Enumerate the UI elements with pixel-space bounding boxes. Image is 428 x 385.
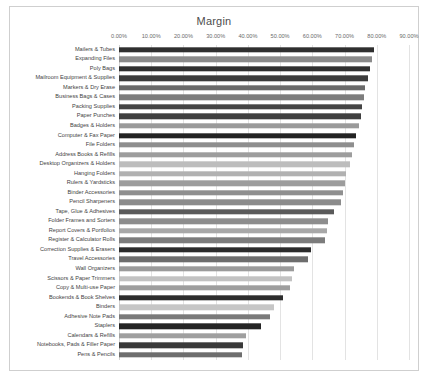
x-tick-label: 20.00% [174,33,193,39]
x-tick-label: 0.00% [111,33,127,39]
bar-row: Bookends & Book Shelves [119,293,409,303]
category-label: Computer & Fax Paper [58,133,115,139]
x-tick-label: 40.00% [238,33,257,39]
bar-row: Mailers & Tubes [119,45,409,55]
category-label: Rulers & Yardsticks [67,180,115,186]
category-label: Packing Supplies [72,104,115,110]
category-label: Bookends & Book Shelves [49,295,115,301]
bar-row: Paper Punches [119,112,409,122]
bar[interactable] [119,352,242,357]
bar-row: Folder Frames and Sorters [119,217,409,227]
bar[interactable] [119,257,308,262]
category-label: Wall Organizers [75,266,115,272]
bar[interactable] [119,304,274,309]
bar[interactable] [119,95,364,100]
bar-row: Copy & Multi-use Paper [119,283,409,293]
bar-row: File Folders [119,140,409,150]
bar[interactable] [119,133,356,138]
bar[interactable] [119,190,343,195]
x-tick-label: 80.00% [367,33,386,39]
category-label: Pencil Sharpeners [69,199,115,205]
bar[interactable] [119,66,370,71]
category-label: File Folders [86,142,115,148]
bar[interactable] [119,228,327,233]
plot-area: Mailers & TubesExpanding FilesPoly BagsM… [119,45,409,360]
category-label: Mailers & Tubes [75,47,115,53]
bar-row: Travel Accessories [119,255,409,265]
bar[interactable] [119,266,294,271]
x-tick-label: 90.00% [400,33,419,39]
category-label: Markers & Dry Erase [63,85,115,91]
bar-row: Correction Supplies & Erasers [119,245,409,255]
category-label: Expanding Files [75,57,115,63]
category-label: Paper Punches [77,114,115,120]
category-label: Binder Accessories [67,190,115,196]
bar[interactable] [119,142,354,147]
bar-row: Notebooks, Pads & Filler Paper [119,340,409,350]
bar[interactable] [119,200,341,205]
bar[interactable] [119,314,270,319]
x-tick-label: 70.00% [335,33,354,39]
bar[interactable] [119,171,346,176]
category-label: Binders [96,304,115,310]
bar-row: Wall Organizers [119,264,409,274]
bar[interactable] [119,276,292,281]
x-tick-label: 50.00% [271,33,290,39]
bar-row: Desktop Organizers & Holders [119,159,409,169]
bar[interactable] [119,238,325,243]
bar[interactable] [119,333,246,338]
bar-row: Markers & Dry Erase [119,83,409,93]
x-tick-label: 60.00% [303,33,322,39]
bar-row: Badges & Holders [119,121,409,131]
bar-row: Adhesive Note Pads [119,312,409,322]
bar-row: Calendars & Refills [119,331,409,341]
bar[interactable] [119,85,365,90]
category-label: Correction Supplies & Erasers [40,247,115,253]
category-label: Folder Frames and Sorters [48,219,115,225]
bar[interactable] [119,76,368,81]
bar[interactable] [119,47,374,52]
bar-row: Address Books & Refills [119,150,409,160]
bar[interactable] [119,295,283,300]
bar-row: Report Covers & Portfolios [119,226,409,236]
chart-title: Margin [10,15,418,27]
bar-row: Register & Calculator Rolls [119,236,409,246]
bar[interactable] [119,114,361,119]
category-label: Staplers [94,323,115,329]
category-label: Poly Bags [90,66,115,72]
bar[interactable] [119,57,372,62]
category-label: Travel Accessories [68,257,115,263]
bar[interactable] [119,209,334,214]
category-label: Badges & Holders [70,123,115,129]
category-label: Notebooks, Pads & Filler Paper [37,342,115,348]
category-label: Adhesive Note Pads [64,314,115,320]
bar-row: Expanding Files [119,55,409,65]
category-label: Calendars & Refills [67,333,115,339]
bar-row: Business Bags & Cases [119,93,409,103]
bar[interactable] [119,247,311,252]
category-label: Scissors & Paper Trimmers [47,276,115,282]
bar[interactable] [119,152,352,157]
bar-row: Rulers & Yardsticks [119,178,409,188]
bar-row: Pens & Pencils [119,350,409,360]
bar[interactable] [119,181,345,186]
category-label: Register & Calculator Rolls [48,238,115,244]
bar-row: Binders [119,302,409,312]
bar[interactable] [119,161,350,166]
category-label: Business Bags & Cases [55,95,115,101]
bar-row: Staplers [119,321,409,331]
chart-frame: Margin 0.00%10.00%20.00%30.00%40.00%50.0… [9,6,419,371]
bar[interactable] [119,219,328,224]
bar-row: Tape, Glue & Adhesives [119,207,409,217]
x-axis-tick-labels: 0.00%10.00%20.00%30.00%40.00%50.00%60.00… [119,33,409,45]
bar[interactable] [119,123,359,128]
bar[interactable] [119,104,362,109]
bar-row: Computer & Fax Paper [119,131,409,141]
category-label: Mailroom Equipment & Supplies [35,76,115,82]
x-tick-label: 30.00% [206,33,225,39]
bar[interactable] [119,285,290,290]
bar[interactable] [119,323,261,328]
bar-rows: Mailers & TubesExpanding FilesPoly BagsM… [119,45,409,360]
bar[interactable] [119,343,243,348]
bar-row: Packing Supplies [119,102,409,112]
